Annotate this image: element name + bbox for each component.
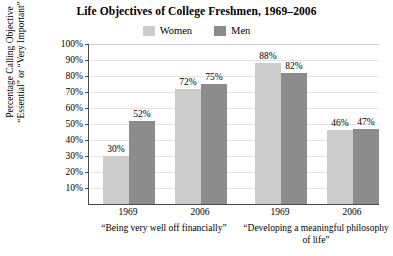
- y-axis-tick-label: 30%: [66, 151, 83, 161]
- bar-value-label: 46%: [331, 118, 348, 129]
- bar-value-label: 30%: [107, 144, 124, 155]
- bar-women-1969: 88%: [255, 63, 281, 204]
- x-axis-year-label: 1969: [119, 206, 138, 218]
- bar-value-label: 47%: [357, 117, 374, 128]
- bar-group: 72%75%: [175, 44, 227, 204]
- x-axis-year-label: 2006: [191, 206, 210, 218]
- bar-value-label: 82%: [285, 61, 302, 72]
- chart-legend: Women Men: [0, 25, 393, 37]
- legend-swatch-women-icon: [143, 26, 155, 36]
- bar-group: 46%47%: [327, 44, 379, 204]
- bar-value-label: 52%: [133, 109, 150, 120]
- y-axis-tick-label: 80%: [66, 71, 83, 81]
- bar-chart-figure: Life Objectives of College Freshmen, 196…: [0, 0, 393, 256]
- bar-men-2006: 75%: [201, 84, 227, 204]
- legend-item-women: Women: [143, 25, 192, 37]
- legend-item-men: Men: [214, 25, 250, 37]
- legend-label-men: Men: [231, 25, 250, 37]
- bar-value-label: 72%: [179, 77, 196, 88]
- bars-layer: 30%52%72%75%88%82%46%47%: [89, 44, 379, 204]
- bar-group: 88%82%: [255, 44, 307, 204]
- y-axis-tick-label: 50%: [66, 119, 83, 129]
- y-axis-tick-label: 90%: [66, 55, 83, 65]
- x-axis-category-label: “Developing a meaningful philosophy of l…: [241, 222, 391, 246]
- legend-swatch-men-icon: [214, 26, 226, 36]
- y-axis-tick-label: 60%: [66, 103, 83, 113]
- x-axis-category-label: “Being very well off financially”: [89, 222, 239, 234]
- y-axis-tick-label: 40%: [66, 135, 83, 145]
- bar-women-1969: 30%: [103, 156, 129, 204]
- bar-men-1969: 82%: [281, 73, 307, 204]
- bar-men-2006: 47%: [353, 129, 379, 204]
- bar-women-2006: 72%: [175, 89, 201, 204]
- chart-title: Life Objectives of College Freshmen, 196…: [0, 4, 393, 18]
- y-axis-title-line-2: “Essential” or “Very Important”: [16, 1, 28, 123]
- plot-area: 10%20%30%40%50%60%70%80%90%100% 30%52%72…: [88, 44, 379, 205]
- y-axis-tick-label: 100%: [61, 39, 83, 49]
- x-axis-year-label: 2006: [343, 206, 362, 218]
- bar-value-label: 75%: [205, 72, 222, 83]
- y-axis-title-line-1: Percentage Calling Objective: [5, 6, 17, 117]
- y-axis-tick-label: 10%: [66, 183, 83, 193]
- x-axis-labels: 19692006“Being very well off financially…: [88, 206, 378, 256]
- y-axis-tick-label: 70%: [66, 87, 83, 97]
- bar-women-2006: 46%: [327, 130, 353, 204]
- bar-group: 30%52%: [103, 44, 155, 204]
- legend-label-women: Women: [160, 25, 192, 37]
- bar-value-label: 88%: [259, 51, 276, 62]
- x-axis-year-label: 1969: [271, 206, 290, 218]
- y-axis-tick-label: 20%: [66, 167, 83, 177]
- y-axis-title: Percentage Calling Objective “Essential”…: [2, 0, 30, 142]
- bar-men-1969: 52%: [129, 121, 155, 204]
